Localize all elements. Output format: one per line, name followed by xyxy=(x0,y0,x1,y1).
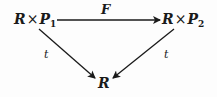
times-operator: × xyxy=(175,11,187,27)
node-factor: P xyxy=(39,11,50,27)
node-subscript: 2 xyxy=(198,19,204,29)
node-base: R xyxy=(98,75,110,91)
label-left-t: t xyxy=(44,49,48,60)
node-base: R xyxy=(14,11,26,27)
node-r-times-p2: R×P2 xyxy=(162,12,204,29)
node-r-times-p1: R×P1 xyxy=(14,12,56,29)
label-right-t: t xyxy=(164,49,168,60)
node-r: R xyxy=(98,76,110,90)
times-operator: × xyxy=(27,11,39,27)
label-f: F xyxy=(101,3,110,16)
commutative-diagram: R×P1 R×P2 R F t t xyxy=(0,0,217,97)
node-subscript: 1 xyxy=(50,19,56,29)
node-factor: P xyxy=(187,11,198,27)
node-base: R xyxy=(162,11,174,27)
